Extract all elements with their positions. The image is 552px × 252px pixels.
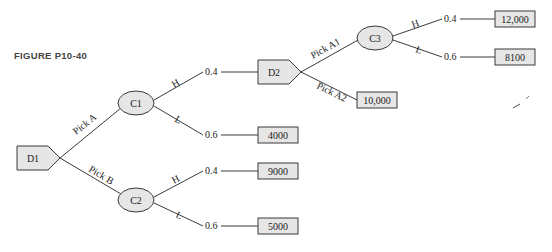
branch-label-pick-a1: Pick A1 — [309, 36, 342, 61]
decision-node-d2: D2 — [258, 60, 301, 84]
outcome-c1-l: 4000 — [258, 127, 298, 143]
edge-c2-h — [154, 171, 203, 197]
scan-artifact — [526, 96, 529, 99]
branch-label-pick-b: Pick B — [87, 163, 116, 186]
svg-text:8100: 8100 — [505, 52, 525, 63]
figure-caption: FIGURE P10-40 — [14, 50, 87, 61]
branch-label-pick-a: Pick A — [70, 111, 99, 137]
outcome-c3-l: 8100 — [495, 49, 535, 65]
outcome-d2-a2: 10,000 — [357, 92, 397, 108]
outcome-c3-h: 12,000 — [495, 11, 535, 27]
probability-c2-h: 0.4 — [205, 165, 218, 176]
chance-node-c1: C1 — [118, 91, 154, 115]
branch-label-pick-a2: Pick A2 — [315, 80, 349, 104]
node-label: C3 — [369, 33, 381, 44]
probability-c2-l: 0.6 — [205, 220, 218, 231]
branch-label-c3-h: H — [410, 17, 421, 30]
chance-node-c3: C3 — [357, 26, 393, 50]
outcome-c2-l: 5000 — [258, 218, 298, 234]
node-label: C2 — [130, 195, 142, 206]
probability-c1-l: 0.6 — [205, 129, 218, 140]
outcome-c2-h: 9000 — [258, 163, 298, 179]
svg-text:4000: 4000 — [268, 130, 288, 141]
node-label: C1 — [130, 98, 142, 109]
branch-label-c1-h: H — [170, 77, 182, 90]
chance-node-c2: C2 — [118, 188, 154, 212]
probability-c1-h: 0.4 — [205, 66, 218, 77]
probability-c3-l: 0.6 — [444, 51, 457, 62]
svg-text:12,000: 12,000 — [501, 14, 529, 25]
svg-text:9000: 9000 — [268, 166, 288, 177]
node-label: D2 — [268, 67, 280, 78]
svg-text:10,000: 10,000 — [363, 95, 391, 106]
node-label: D1 — [27, 153, 39, 164]
decision-tree-diagram: FIGURE P10-40 D1 C1 C2 D2 C3 — [0, 0, 552, 252]
svg-text:5000: 5000 — [268, 221, 288, 232]
probability-c3-h: 0.4 — [444, 13, 457, 24]
decision-node-d1: D1 — [17, 146, 60, 170]
scan-artifact — [513, 104, 520, 108]
branch-label-c1-l: L — [173, 113, 184, 126]
branch-label-c2-l: L — [174, 209, 184, 222]
